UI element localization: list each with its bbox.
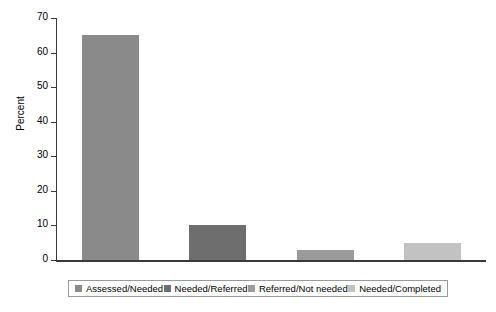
legend-item-label: Assessed/Needed	[86, 284, 163, 294]
y-axis-tick-label: 50	[18, 80, 48, 91]
x-axis-line	[56, 260, 486, 262]
bar	[82, 35, 139, 260]
legend-swatch-icon	[75, 285, 82, 292]
y-axis-tick: 40	[51, 122, 56, 123]
chart-legend: Assessed/NeededNeeded/ReferredReferred/N…	[68, 280, 448, 297]
bars-layer	[57, 18, 486, 260]
legend-swatch-icon	[248, 285, 255, 292]
y-axis-tick: 50	[51, 87, 56, 88]
y-axis-tick-label: 30	[18, 149, 48, 160]
legend-item: Referred/Not needed	[248, 284, 348, 294]
y-axis-tick-label: 0	[18, 253, 48, 264]
y-axis-tick: 0	[51, 260, 56, 261]
y-axis-tick: 10	[51, 225, 56, 226]
bar	[297, 250, 354, 260]
y-axis-tick: 70	[51, 18, 56, 19]
y-axis-tick: 60	[51, 53, 56, 54]
y-axis-tick: 20	[51, 191, 56, 192]
bar	[404, 243, 461, 260]
y-axis-tick-label: 60	[18, 46, 48, 57]
legend-swatch-icon	[348, 285, 355, 292]
y-axis-tick-label: 70	[18, 11, 48, 22]
y-axis-tick-label: 40	[18, 115, 48, 126]
legend-item: Needed/Completed	[348, 284, 441, 294]
y-axis-tick-label: 10	[18, 218, 48, 229]
bar-chart: Percent 010203040506070 Assessed/NeededN…	[0, 0, 496, 312]
y-axis-tick-label: 20	[18, 184, 48, 195]
legend-item: Assessed/Needed	[75, 284, 163, 294]
plot-area: 010203040506070	[56, 18, 486, 261]
legend-item-label: Needed/Referred	[175, 284, 248, 294]
y-axis-tick: 30	[51, 156, 56, 157]
legend-swatch-icon	[164, 285, 171, 292]
legend-item: Needed/Referred	[164, 284, 248, 294]
bar	[189, 225, 246, 260]
legend-item-label: Referred/Not needed	[259, 284, 348, 294]
legend-item-label: Needed/Completed	[359, 284, 441, 294]
